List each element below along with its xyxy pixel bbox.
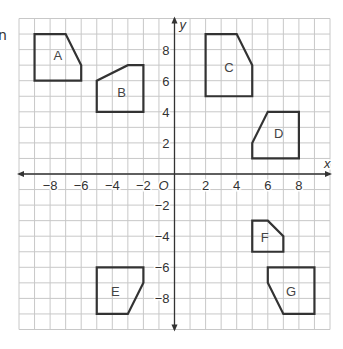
y-tick-label: −6 <box>155 260 170 275</box>
x-tick-label: 8 <box>295 178 302 193</box>
tick-labels: −8−6−4−224688642−2−4−6−8Oxy <box>43 17 331 307</box>
y-tick-label: 4 <box>162 105 169 120</box>
x-tick-label: −2 <box>136 178 151 193</box>
y-tick-label: 6 <box>162 74 169 89</box>
y-tick-label: −4 <box>155 229 170 244</box>
polygon-label: E <box>111 284 120 299</box>
arrow-left-icon <box>17 171 24 177</box>
arrow-down-icon <box>172 325 178 332</box>
polygon-label: B <box>117 85 126 100</box>
x-tick-label: 6 <box>264 178 271 193</box>
polygon-b: B <box>97 65 144 112</box>
x-tick-label: −6 <box>74 178 89 193</box>
y-tick-label: −8 <box>155 291 170 306</box>
polygon-outline <box>97 267 144 314</box>
arrow-up-icon <box>172 17 178 24</box>
polygon-label: D <box>274 126 283 141</box>
y-tick-label: −2 <box>155 198 170 213</box>
arrow-right-icon <box>325 171 332 177</box>
polygon-a: A <box>35 34 82 81</box>
x-tick-label: −8 <box>43 178 58 193</box>
x-axis-label: x <box>323 156 331 171</box>
polygon-label: C <box>224 60 233 75</box>
x-tick-label: −4 <box>105 178 120 193</box>
polygon-e: E <box>97 267 144 314</box>
x-tick-label: 4 <box>233 178 240 193</box>
polygon-label: G <box>286 284 296 299</box>
x-tick-label: 2 <box>202 178 209 193</box>
axes <box>17 17 332 332</box>
y-tick-label: 2 <box>162 136 169 151</box>
polygon-d: D <box>252 112 299 159</box>
origin-label: O <box>158 178 168 193</box>
coordinate-plane: −8−6−4−224688642−2−4−6−8Oxy ABCDEFG <box>0 0 343 349</box>
polygon-label: F <box>261 230 269 245</box>
polygon-label: A <box>54 48 63 63</box>
y-tick-label: 8 <box>162 43 169 58</box>
polygon-g: G <box>268 267 315 314</box>
